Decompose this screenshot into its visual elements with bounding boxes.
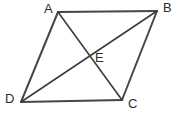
segment-cd bbox=[21, 100, 122, 102]
segment-da bbox=[21, 12, 58, 102]
segment-bc bbox=[122, 11, 157, 100]
parallelogram-svg bbox=[0, 0, 180, 116]
segment-ab bbox=[58, 11, 157, 12]
vertex-label-a: A bbox=[44, 2, 53, 15]
vertex-label-e: E bbox=[95, 51, 104, 64]
diagonal-db bbox=[21, 11, 157, 102]
vertex-label-d: D bbox=[5, 92, 14, 105]
vertex-label-c: C bbox=[128, 97, 137, 110]
geometry-figure: A B C D E bbox=[0, 0, 180, 116]
vertex-label-b: B bbox=[163, 1, 172, 14]
